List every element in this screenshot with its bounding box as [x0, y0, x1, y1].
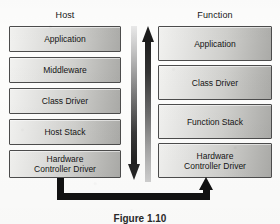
function-layer-function-stack: Function Stack [158, 104, 272, 139]
return-path-arrow-head [199, 177, 213, 190]
upstream-arrow-head [142, 26, 154, 42]
host-layer-hardware-controller-driver-label: Hardware Controller Driver [34, 154, 96, 174]
downstream-arrow-shaft [131, 26, 137, 166]
function-layer-class-driver: Class Driver [158, 65, 272, 100]
function-layer-hardware-controller-driver: Hardware Controller Driver [158, 143, 272, 178]
host-hcd-line-2: Controller Driver [34, 164, 96, 174]
host-layer-host-stack: Host Stack [9, 119, 121, 145]
return-path-horizontal-segment [57, 193, 209, 200]
host-layer-application-label: Application [44, 34, 86, 44]
host-layer-hardware-controller-driver: Hardware Controller Driver [9, 150, 121, 178]
host-hcd-line-1: Hardware [34, 154, 96, 164]
function-layer-hardware-controller-driver-label: Hardware Controller Driver [184, 151, 246, 171]
column-title-function: Function [157, 10, 273, 21]
upstream-arrow-shaft [145, 42, 151, 182]
column-title-host: Host [8, 10, 122, 21]
host-layer-class-driver: Class Driver [9, 88, 121, 114]
host-layer-middleware-label: Middleware [43, 65, 86, 75]
center-arrow-group [126, 26, 156, 182]
function-layer-stack: Application Class Driver Function Stack … [158, 26, 272, 178]
usb-stack-figure: Host Function Application Middleware Cla… [0, 0, 280, 224]
host-layer-stack: Application Middleware Class Driver Host… [9, 26, 121, 178]
return-path-arrow-icon [0, 178, 280, 210]
figure-caption: Figure 1.10 [0, 213, 280, 224]
function-layer-application: Application [158, 26, 272, 61]
host-layer-middleware: Middleware [9, 57, 121, 83]
function-layer-function-stack-label: Function Stack [187, 117, 243, 127]
function-layer-class-driver-label: Class Driver [192, 78, 238, 88]
function-layer-application-label: Application [194, 39, 236, 49]
function-hcd-line-2: Controller Driver [184, 161, 246, 171]
host-layer-class-driver-label: Class Driver [42, 96, 88, 106]
host-layer-host-stack-label: Host Stack [44, 127, 85, 137]
host-layer-application: Application [9, 26, 121, 52]
function-hcd-line-1: Hardware [184, 151, 246, 161]
